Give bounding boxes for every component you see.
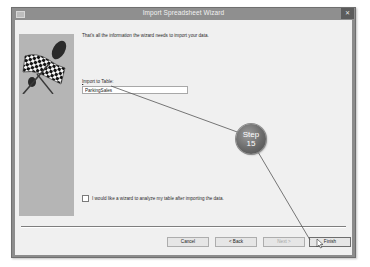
close-icon: ✕ bbox=[345, 10, 350, 16]
import-to-table-label: Import to Table: bbox=[82, 79, 114, 84]
wizard-message: That's all the information the wizard ne… bbox=[82, 33, 209, 38]
window-title: Import Spreadsheet Wizard bbox=[12, 9, 355, 16]
step-callout-line1: Step bbox=[236, 130, 266, 139]
analyze-table-label[interactable]: I would like a wizard to analyze my tabl… bbox=[92, 196, 224, 201]
cancel-button[interactable]: Cancel bbox=[167, 237, 209, 247]
import-spreadsheet-wizard-dialog: Import Spreadsheet Wizard ✕ bbox=[11, 7, 356, 258]
button-separator bbox=[21, 226, 346, 228]
close-button[interactable]: ✕ bbox=[341, 8, 354, 19]
analyze-table-option[interactable]: I would like a wizard to analyze my tabl… bbox=[82, 195, 224, 202]
checkered-flag-icon bbox=[19, 34, 74, 94]
wizard-side-image bbox=[19, 34, 74, 216]
step-callout-badge: Step 15 bbox=[236, 124, 266, 154]
title-bar[interactable]: Import Spreadsheet Wizard ✕ bbox=[12, 8, 355, 20]
analyze-table-checkbox[interactable] bbox=[82, 195, 89, 202]
back-button[interactable]: < Back bbox=[215, 237, 257, 247]
import-label-text: mport to Table: bbox=[83, 79, 113, 84]
wizard-body: That's all the information the wizard ne… bbox=[15, 20, 352, 255]
next-button[interactable]: Next > bbox=[263, 237, 305, 247]
mouse-pointer-icon bbox=[316, 238, 324, 249]
screenshot-stage: Import Spreadsheet Wizard ✕ bbox=[0, 0, 370, 267]
step-callout-line2: 15 bbox=[236, 139, 266, 148]
import-to-table-input[interactable] bbox=[82, 86, 188, 94]
